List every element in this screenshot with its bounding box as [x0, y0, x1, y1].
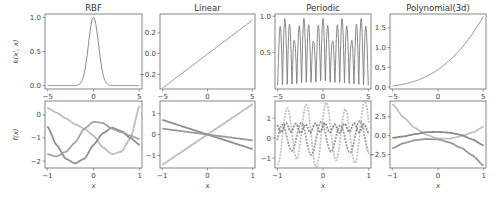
x-tick-label: −5 [273, 93, 283, 101]
series-line [392, 139, 483, 166]
y-tick-label: −1 [31, 134, 41, 142]
y-tick-label: −1 [146, 152, 156, 160]
y-axis-label: k(x', x) [12, 39, 20, 63]
series-line [392, 104, 483, 139]
x-tick-label: −1 [387, 172, 397, 180]
y-tick-label: 1 [267, 115, 271, 123]
x-tick-label: −5 [43, 93, 53, 101]
x-tick-label: 1 [366, 172, 370, 180]
x-tick-label: −1 [42, 172, 52, 180]
y-tick-label: 2.5 [375, 113, 386, 121]
x-axis-label: x [320, 182, 326, 190]
series-line [162, 129, 252, 141]
y-tick-label: −0.2 [139, 71, 156, 79]
panel-samples-0: −101−2−10xf(x) [12, 101, 142, 190]
series-line [47, 106, 139, 155]
y-tick-label: 1.0 [260, 13, 271, 21]
series-line [163, 20, 253, 88]
panel-title: Linear [194, 3, 221, 13]
panel-samples-3: −101−2.50.02.5x [369, 101, 486, 190]
x-tick-label: 0 [91, 172, 95, 180]
panel-linear: −505−0.20.00.2Linear [139, 3, 255, 102]
series-line [277, 123, 368, 133]
y-tick-label: 0 [37, 111, 41, 119]
y-tick-label: −2.5 [369, 151, 386, 159]
y-tick-label: 1.0 [375, 44, 386, 52]
x-tick-label: 5 [137, 93, 141, 101]
x-tick-label: 0 [321, 172, 325, 180]
x-tick-label: 0 [436, 93, 440, 101]
series-line [48, 17, 140, 85]
plot-area [47, 106, 139, 164]
x-tick-label: 5 [481, 93, 485, 101]
plot-area [278, 18, 369, 85]
axes-frame [45, 14, 142, 89]
x-tick-label: −5 [388, 93, 398, 101]
x-tick-label: −1 [157, 172, 167, 180]
axes-frame [160, 14, 255, 89]
x-tick-label: 5 [250, 93, 254, 101]
x-axis-label: x [204, 182, 210, 190]
series-line [393, 16, 484, 86]
y-tick-label: 0.0 [30, 82, 41, 90]
x-tick-label: −1 [272, 172, 282, 180]
y-tick-label: 0.2 [145, 29, 156, 37]
y-tick-label: 0.5 [30, 48, 41, 56]
panel-periodic: −5050.51.0Periodic [260, 3, 371, 102]
series-line [278, 18, 369, 85]
y-tick-label: 0.0 [375, 84, 386, 92]
x-tick-label: 0 [436, 172, 440, 180]
panel-title: Periodic [306, 3, 340, 13]
y-tick-label: 0.0 [145, 50, 156, 58]
y-tick-label: 1 [152, 110, 156, 118]
plot-area [162, 104, 252, 165]
y-tick-label: 0.5 [260, 49, 271, 57]
y-tick-label: 1.0 [30, 14, 41, 22]
x-tick-label: 0 [321, 93, 325, 101]
kernel-figure: −5050.00.51.0RBFk(x', x)−505−0.20.00.2Li… [0, 0, 503, 197]
y-axis-label: f(x) [12, 128, 20, 140]
panel-rbf: −5050.00.51.0RBFk(x', x) [12, 3, 142, 102]
x-axis-label: x [90, 182, 96, 190]
x-tick-label: 5 [366, 93, 370, 101]
plot-area [277, 101, 368, 167]
y-tick-label: 0.5 [375, 64, 386, 72]
x-tick-label: −5 [158, 93, 168, 101]
panel-title: RBF [85, 3, 102, 13]
x-tick-label: 1 [251, 172, 255, 180]
x-tick-label: 0 [205, 172, 209, 180]
plot-area [393, 16, 484, 86]
x-tick-label: 1 [481, 172, 485, 180]
plot-area [48, 17, 140, 85]
x-tick-label: 0 [205, 93, 209, 101]
plot-area [163, 20, 253, 88]
axes-frame [390, 14, 486, 89]
y-tick-label: 0.0 [375, 132, 386, 140]
y-tick-label: 1.5 [375, 24, 386, 32]
x-axis-label: x [435, 182, 441, 190]
x-tick-label: 0 [91, 93, 95, 101]
y-tick-label: 0 [152, 131, 156, 139]
y-tick-label: −2 [31, 158, 41, 166]
y-tick-label: −1 [261, 155, 271, 163]
y-tick-label: 0 [267, 135, 271, 143]
axes-frame [390, 101, 486, 168]
x-tick-label: 1 [137, 172, 141, 180]
plot-area [392, 104, 483, 166]
panel-samples-1: −101−101x [146, 101, 255, 190]
panel-samples-2: −101−101x [261, 101, 371, 190]
panel-polynomial-3d-: −5050.00.51.01.5Polynomial(3d) [375, 3, 486, 102]
panel-title: Polynomial(3d) [406, 3, 470, 13]
